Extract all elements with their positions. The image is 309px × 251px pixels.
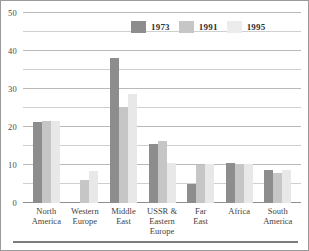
x-axis-label-line: North [27, 206, 66, 216]
bar [33, 122, 42, 203]
bar-group [220, 13, 259, 203]
x-axis-category-label: NorthAmerica [27, 206, 66, 236]
bar-group [258, 13, 297, 203]
bar [196, 165, 205, 203]
x-axis-category-label: Africa [220, 206, 259, 236]
chart-figure: 01020304050 NorthAmericaWesternEuropeMid… [0, 0, 309, 251]
legend-color-swatch [179, 21, 194, 33]
x-axis-label-line: Middle [104, 206, 143, 216]
bar [80, 180, 89, 203]
bar [264, 170, 273, 203]
bottom-divider [13, 241, 298, 243]
bar [187, 184, 196, 203]
x-axis-label-line: Europe [66, 216, 105, 226]
bar-group [27, 13, 66, 203]
legend-item[interactable]: 1995 [227, 21, 266, 33]
bar [282, 170, 291, 203]
bar [42, 121, 51, 203]
bar-groups [23, 13, 301, 203]
x-axis-label-line: Western [66, 206, 105, 216]
bar [71, 202, 80, 203]
bar-group [66, 13, 105, 203]
y-axis-tick-label: 30 [0, 85, 17, 94]
x-axis-label-line: America [27, 216, 66, 226]
legend-color-swatch [227, 21, 242, 33]
x-axis-label-line: East [104, 216, 143, 226]
legend-item[interactable]: 1991 [179, 21, 218, 33]
legend-label: 1991 [199, 22, 218, 32]
bar [128, 94, 137, 203]
x-axis-category-label: USSR &EasternEurope [143, 206, 182, 236]
y-axis-tick-label: 20 [0, 123, 17, 132]
bar [158, 141, 167, 203]
bar [149, 144, 158, 203]
x-axis-label-line: Eastern [143, 216, 182, 226]
legend-item[interactable]: 1973 [131, 21, 170, 33]
bar [273, 173, 282, 203]
chart-legend: 197319911995 [131, 21, 265, 33]
bar [226, 163, 235, 203]
bar [244, 164, 253, 203]
x-axis-category-label: SouthAmerica [258, 206, 297, 236]
bar [235, 164, 244, 203]
bar-group [104, 13, 143, 203]
y-axis-tick-label: 10 [0, 161, 17, 170]
x-axis-label-line: Europe [143, 226, 182, 236]
x-axis-label-line: USSR & [143, 206, 182, 216]
x-axis-category-label: MiddleEast [104, 206, 143, 236]
y-axis-tick-label: 50 [0, 9, 17, 18]
x-axis-label-line: Far [181, 206, 220, 216]
x-axis-category-labels: NorthAmericaWesternEuropeMiddleEastUSSR … [23, 206, 301, 236]
x-axis-label-line: Africa [220, 206, 259, 216]
legend-label: 1995 [247, 22, 266, 32]
plot-area [23, 13, 301, 203]
y-axis-tick-label: 40 [0, 47, 17, 56]
x-axis-label-line: America [258, 216, 297, 226]
x-axis-category-label: FarEast [181, 206, 220, 236]
x-axis-label-line: South [258, 206, 297, 216]
bar [167, 163, 176, 203]
x-axis-category-label: WesternEurope [66, 206, 105, 236]
bar [119, 107, 128, 203]
bar-group [181, 13, 220, 203]
legend-label: 1973 [151, 22, 170, 32]
y-axis-tick-label: 0 [0, 199, 17, 208]
bar [110, 58, 119, 203]
x-axis-label-line: East [181, 216, 220, 226]
bar [89, 171, 98, 203]
bar-group [143, 13, 182, 203]
bar [51, 121, 60, 203]
bar [205, 164, 214, 203]
legend-color-swatch [131, 21, 146, 33]
